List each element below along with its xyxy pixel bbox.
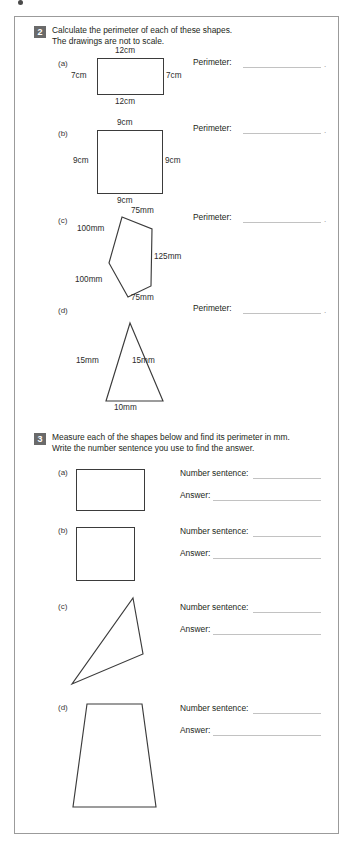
answer-line-3d[interactable] (213, 735, 321, 736)
page-corner-mark (18, 0, 23, 5)
shape-trapezoid-3d (15, 17, 340, 817)
number-sentence-line-3d[interactable] (253, 713, 321, 714)
answer-label-3d: Answer: (180, 725, 210, 735)
number-sentence-label-3d: Number sentence: (180, 703, 248, 713)
worksheet-page: 2 Calculate the perimeter of each of the… (14, 16, 339, 834)
